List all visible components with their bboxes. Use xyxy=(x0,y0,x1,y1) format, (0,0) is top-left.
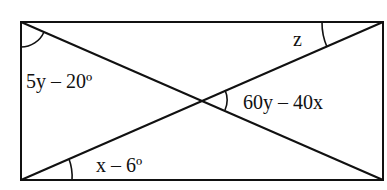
label-center-right-angle: 60y – 40x xyxy=(243,91,323,114)
angle-arc-top-left xyxy=(21,32,44,47)
angle-arc-bottom-left xyxy=(69,159,72,180)
angle-arc-center-right xyxy=(225,90,227,110)
label-top-left-angle: 5y – 20º xyxy=(26,70,92,93)
label-top-right-angle: z xyxy=(293,28,302,50)
angle-arc-top-right xyxy=(322,22,327,47)
label-bottom-left-angle: x – 6º xyxy=(96,154,142,176)
geometry-diagram: 5y – 20º z 60y – 40x x – 6º xyxy=(0,0,387,190)
